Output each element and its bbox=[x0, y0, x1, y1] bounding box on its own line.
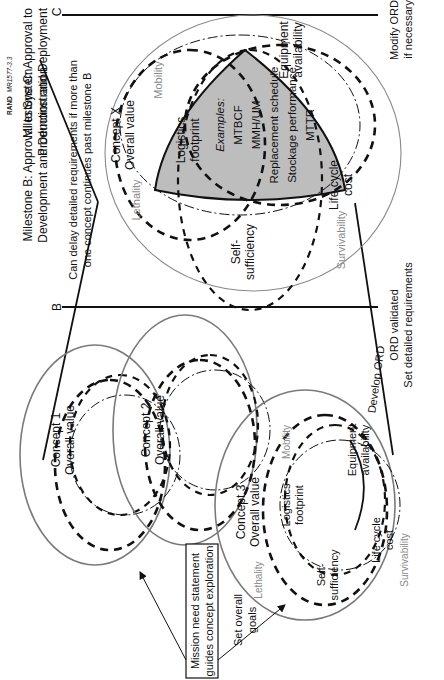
svg-text:Self-: Self- bbox=[229, 240, 243, 265]
svg-text:Life cycle: Life cycle bbox=[327, 160, 341, 210]
svg-text:Life cycle: Life cycle bbox=[370, 517, 382, 563]
svg-text:MMH/UM: MMH/UM bbox=[250, 101, 262, 150]
svg-text:Logistics: Logistics bbox=[174, 117, 188, 164]
survivability-label: Survivability bbox=[335, 210, 347, 269]
concept-3-group: Concept 3 Overall value Mobility Lethali… bbox=[215, 390, 410, 620]
concept-1-name: Concept 1 bbox=[49, 412, 63, 467]
svg-text:MTTR: MTTR bbox=[304, 109, 316, 141]
concept-3-sub: Overall value bbox=[248, 477, 262, 547]
c3-survivability-label: Survivability bbox=[399, 533, 410, 586]
modify-ord-1: Modify ORD bbox=[388, 0, 400, 60]
milestone-b-letter: B bbox=[50, 303, 64, 311]
milestone-c-letter: C bbox=[50, 7, 64, 16]
delay-note-1: Can delay detailed requirements if more … bbox=[67, 60, 79, 280]
svg-text:sufficiency: sufficiency bbox=[328, 549, 340, 601]
mission-box-line2: guides concept exploration bbox=[203, 546, 215, 677]
svg-text:Replacement schedule: Replacement schedule bbox=[268, 67, 280, 184]
set-overall-1: Set overall bbox=[232, 594, 244, 646]
mission-box-line1: Mission need statement bbox=[189, 553, 201, 669]
set-overall-2: goals bbox=[246, 606, 258, 633]
rand-credit: RAND MR1577-3.3 bbox=[6, 56, 13, 115]
svg-text:cost: cost bbox=[383, 530, 395, 550]
svg-text:Logistics: Logistics bbox=[280, 483, 292, 526]
arrow-to-concept1 bbox=[140, 572, 186, 660]
concept-x-sub: Overall value bbox=[123, 100, 137, 170]
concept-x-group: Concept X Overall value Mobility Lethali… bbox=[105, 15, 401, 310]
svg-text:Self-: Self- bbox=[315, 563, 327, 586]
examples-label: Examples: bbox=[214, 98, 226, 152]
svg-text:MTBCF: MTBCF bbox=[232, 105, 244, 145]
svg-text:cost: cost bbox=[341, 173, 355, 196]
lethality-label: Lethality bbox=[130, 179, 142, 220]
svg-text:Stockage performance: Stockage performance bbox=[286, 67, 298, 183]
concept-2-sub: Overall value bbox=[153, 395, 167, 465]
concept-3-name: Concept 3 bbox=[234, 484, 248, 539]
ord-validated-label: ORD validated bbox=[388, 289, 400, 361]
set-detailed-label: Set detailed requirements bbox=[402, 262, 414, 388]
develop-ord-label: Develop ORD bbox=[365, 345, 386, 414]
svg-text:Equipment: Equipment bbox=[346, 424, 358, 477]
svg-text:sufficiency: sufficiency bbox=[243, 224, 257, 280]
c3-lethality-label: Lethality bbox=[253, 561, 264, 598]
svg-text:footprint: footprint bbox=[188, 118, 202, 162]
mobility-label: Mobility bbox=[152, 61, 164, 99]
svg-text:availability: availability bbox=[359, 424, 371, 475]
svg-text:footprint: footprint bbox=[293, 485, 305, 525]
milestone-b-title-1: Milestone B: Approval to System bbox=[21, 69, 35, 242]
modify-ord-2: if necessary bbox=[402, 0, 414, 59]
concept-x-name: Concept X bbox=[109, 107, 123, 163]
concept-2-name: Concept 2 bbox=[139, 402, 153, 457]
milestone-b-title-2: Development and Demonstration bbox=[36, 67, 50, 242]
c3-mobility-label: Mobility bbox=[281, 425, 292, 459]
concept-1-sub: Overall value bbox=[63, 405, 77, 475]
concept-diagram: RAND MR1577-3.3 Milestone C: Approval to… bbox=[0, 0, 444, 680]
